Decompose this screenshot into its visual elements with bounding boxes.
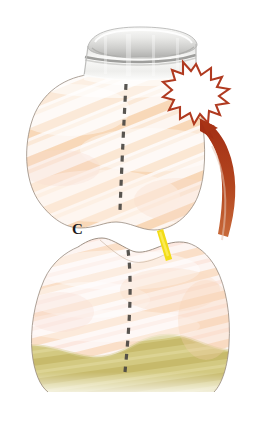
dental-illustration-figure: C (0, 0, 263, 433)
illustration-canvas: C (0, 0, 263, 433)
contact-point-label: C (72, 221, 83, 237)
